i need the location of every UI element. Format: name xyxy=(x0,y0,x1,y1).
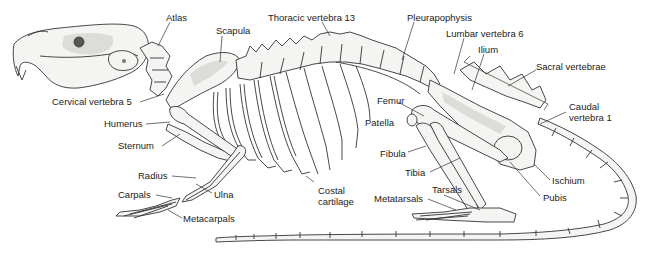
label-sacral-vertebrae: Sacral vertebrae xyxy=(536,61,606,72)
label-scapula: Scapula xyxy=(216,25,250,36)
vertebral-column xyxy=(236,32,440,94)
label-cervical-vertebra-5: Cervical vertebra 5 xyxy=(52,96,132,107)
label-carpals: Carpals xyxy=(118,189,151,200)
label-fibula: Fibula xyxy=(380,148,406,159)
label-metatarsals: Metatarsals xyxy=(374,193,423,204)
label-sternum: Sternum xyxy=(118,140,154,151)
label-patella: Patella xyxy=(365,117,394,128)
skeleton-drawing xyxy=(0,0,651,256)
label-femur: Femur xyxy=(377,95,404,106)
label-tibia: Tibia xyxy=(405,167,425,178)
label-metacarpals: Metacarpals xyxy=(183,213,235,224)
scapula xyxy=(166,53,240,110)
label-lumbar-vertebra-6: Lumbar vertebra 6 xyxy=(446,28,524,39)
label-costal-cartilage: Costal cartilage xyxy=(318,185,354,207)
label-ulna: Ulna xyxy=(214,189,234,200)
label-humerus: Humerus xyxy=(104,118,143,129)
cervical-vertebrae xyxy=(140,42,172,96)
label-pleurapophysis: Pleurapophysis xyxy=(407,12,472,23)
label-thoracic-vertebra-13: Thoracic vertebra 13 xyxy=(268,12,355,23)
skull xyxy=(13,24,148,88)
label-pubis: Pubis xyxy=(543,192,567,203)
label-radius: Radius xyxy=(138,170,168,181)
label-ilium: Ilium xyxy=(478,44,498,55)
label-ischium: Ischium xyxy=(552,175,585,186)
rat-skeleton-diagram: Atlas Scapula Thoracic vertebra 13 Pleur… xyxy=(0,0,651,256)
label-tarsals: Tarsals xyxy=(432,184,462,195)
label-caudal-vertebra-1: Caudal vertebra 1 xyxy=(569,101,612,123)
forefoot xyxy=(116,198,180,218)
label-atlas: Atlas xyxy=(166,12,187,23)
